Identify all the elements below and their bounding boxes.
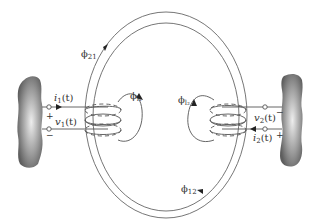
v2-plus-sign: + [276, 131, 284, 140]
v1-minus-sign: − [46, 131, 54, 140]
phi-l1-label: ϕl₁ [130, 91, 142, 103]
phi21-arrow-icon [103, 44, 108, 51]
phi21-label: ϕ21 [81, 49, 97, 61]
coupled-coils-diagram: ϕ21 ϕ12 ϕl₁ ϕl₂ i1(t) v1(t) + − v2(t) i2… [0, 0, 319, 224]
right-coil [210, 104, 246, 136]
v1-label: v1(t) [55, 117, 77, 129]
v1-plus-sign: + [46, 112, 54, 121]
phi12-label: ϕ12 [181, 184, 197, 196]
v2-minus-sign: − [276, 108, 284, 117]
i2-label: i2(t) [253, 133, 273, 145]
phi-l2-label: ϕl₂ [178, 95, 190, 107]
core-outer [85, 12, 247, 218]
i1-label: i1(t) [54, 93, 74, 105]
right-source-blob [280, 74, 303, 167]
v2-label: v2(t) [254, 113, 276, 125]
left-coil [85, 104, 121, 136]
phi12-arrow-icon [197, 189, 203, 194]
left-source-blob [17, 76, 42, 168]
core-inner [93, 23, 239, 211]
